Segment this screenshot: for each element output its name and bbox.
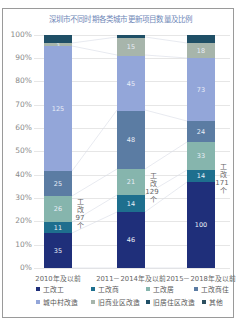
segment-工改商: 11 xyxy=(44,222,72,233)
segment-工改商住: 48 xyxy=(117,111,145,169)
legend-label: 城中村改造 xyxy=(43,297,78,307)
x-label-2010: 2010年及以前 xyxy=(21,273,95,283)
legend-item: 工改居 xyxy=(146,284,174,294)
legend-label: 工改工 xyxy=(43,284,64,294)
segment-城中村改造: 45 xyxy=(117,56,145,111)
segment-工改居: 26 xyxy=(44,196,72,222)
legend-label: 工改居 xyxy=(153,284,174,294)
legend-item: 工改工 xyxy=(36,284,64,294)
legend-item: 其他 xyxy=(202,297,223,307)
legend-item: 城中村改造 xyxy=(36,297,78,307)
legend-swatch-icon xyxy=(36,300,40,304)
segment-旧居住区改造 xyxy=(187,35,215,43)
segment-工改工: 46 xyxy=(117,212,145,268)
segment-城中村改造: 125 xyxy=(44,46,72,171)
anno-text: 工 xyxy=(217,163,229,171)
legend-item: 旧居住区改造 xyxy=(146,297,195,307)
anno-text: 改 xyxy=(147,180,159,188)
anno-text: 工 xyxy=(147,172,159,180)
anno-text: 改 xyxy=(74,206,86,214)
bar-2011-2014: 15 45 48 21 14 46 xyxy=(117,35,145,268)
segment-工改居: 33 xyxy=(187,142,215,170)
legend-item: 旧商业区改造 xyxy=(91,297,140,307)
segment-工改居: 21 xyxy=(117,169,145,195)
segment-工改工: 100 xyxy=(187,182,215,268)
segment-旧商业区改造: 15 xyxy=(117,38,145,56)
legend-label: 工改商住 xyxy=(201,284,229,294)
anno-text: 171 xyxy=(215,179,229,187)
legend-swatch-icon xyxy=(91,287,95,291)
anno-text: 97 xyxy=(74,214,86,222)
legend-swatch-icon xyxy=(91,300,95,304)
legend-label: 旧商业区改造 xyxy=(98,297,140,307)
legend-swatch-icon xyxy=(146,300,150,304)
anno-text: 个 xyxy=(147,196,159,204)
legend-label: 其他 xyxy=(209,297,223,307)
x-label-2011-2014: 2011－2014年及以前 xyxy=(94,273,168,283)
legend-label: 工改商 xyxy=(98,284,119,294)
legend-swatch-icon xyxy=(146,287,150,291)
annotation-2015-2018: 工 改 171 个 xyxy=(217,163,229,195)
legend-label: 旧居住区改造 xyxy=(153,297,195,307)
bar-2010: 3 125 25 26 11 35 xyxy=(44,35,72,268)
x-label-2015-2018: 2015－2018年及以前 xyxy=(164,273,238,283)
annotation-2010: 工 改 97 个 xyxy=(74,198,86,230)
legend-swatch-icon xyxy=(194,287,198,291)
segment-工改工: 35 xyxy=(44,233,72,268)
anno-text: 工 xyxy=(74,198,86,206)
segment-工改商住: 24 xyxy=(187,121,215,142)
annotation-2011-2014: 工 改 129 个 xyxy=(147,172,159,204)
segment-城中村改造: 73 xyxy=(187,58,215,121)
anno-text: 个 xyxy=(217,187,229,195)
bar-2015-2018: 18 73 24 33 14 100 xyxy=(187,35,215,268)
segment-工改商: 14 xyxy=(187,170,215,182)
legend-item: 工改商 xyxy=(91,284,119,294)
segment-工改商: 14 xyxy=(117,195,145,212)
legend-swatch-icon xyxy=(202,300,206,304)
legend-item: 工改商住 xyxy=(194,284,229,294)
anno-text: 129 xyxy=(145,188,159,196)
anno-text: 改 xyxy=(217,171,229,179)
legend-swatch-icon xyxy=(36,287,40,291)
anno-text: 个 xyxy=(74,222,86,230)
segment-工改商住: 25 xyxy=(44,171,72,196)
segment-旧商业区改造: 18 xyxy=(187,43,215,58)
